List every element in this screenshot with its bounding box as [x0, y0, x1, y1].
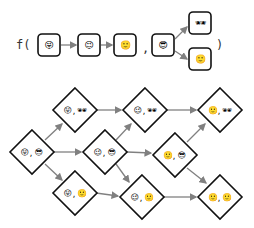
node-left-emoji: 😉	[131, 193, 139, 202]
node-separator: ,	[173, 152, 176, 161]
edge	[45, 124, 62, 140]
node-left-emoji: 😉	[134, 106, 142, 115]
emoji-sunglasses-face-icon: 😎	[158, 40, 167, 50]
node-right-emoji: 🙂	[144, 193, 154, 202]
node-right-emoji: 😎	[178, 151, 186, 160]
node-right-emoji: 🕶	[222, 106, 232, 115]
node-left-emoji: 😜	[21, 148, 29, 157]
node-right-emoji: 🙂	[222, 193, 232, 202]
node-separator: ,	[140, 194, 143, 203]
edge	[45, 164, 62, 180]
function-suffix: )	[216, 38, 223, 52]
edge	[127, 152, 151, 153]
emoji-sunglasses-icon: 🕶	[195, 18, 207, 28]
node-separator: ,	[143, 107, 146, 116]
graph-node: 🙂 , 🕶	[198, 88, 242, 132]
node-separator: ,	[218, 107, 221, 116]
node-left-emoji: 🙂	[208, 193, 218, 202]
node-left-emoji: 😜	[64, 189, 72, 198]
arrow	[175, 51, 187, 59]
function-prefix: f(	[16, 38, 30, 52]
node-left-emoji: 🙂	[163, 151, 173, 160]
graph-node: 😜 , 😎	[10, 130, 54, 174]
node-left-emoji: 😜	[64, 106, 72, 115]
edge	[187, 124, 205, 142]
edge	[96, 193, 118, 196]
emoji-smile-icon: 🙂	[195, 54, 206, 64]
node-separator: ,	[30, 149, 33, 158]
node-left-emoji: 😉	[94, 148, 102, 157]
node-right-emoji: 🕶	[77, 106, 87, 115]
node-right-emoji: 🕶	[147, 106, 157, 115]
node-separator: ,	[73, 107, 76, 116]
graph-node: 😉 , 😎	[83, 130, 127, 174]
edge	[116, 164, 129, 182]
graph-node: 😉 , 🙂	[120, 175, 164, 219]
edge	[187, 168, 206, 183]
node-separator: ,	[218, 194, 221, 203]
node-separator: ,	[103, 149, 106, 158]
function-expression: f( 😜 😉 🙂 , 😎 🕶 🙂 )	[16, 12, 223, 70]
node-left-emoji: 🙂	[208, 106, 218, 115]
emoji-wink-tongue-icon: 😜	[44, 40, 53, 50]
emoji-wink-icon: 😉	[84, 40, 93, 50]
diagram-canvas: f( 😜 😉 🙂 , 😎 🕶 🙂 )	[0, 0, 254, 228]
node-right-emoji: 😎	[108, 148, 116, 157]
node-right-emoji: 😎	[35, 148, 43, 157]
argument-separator: ,	[142, 41, 149, 55]
arrow	[175, 27, 187, 39]
node-right-emoji: 🙂	[77, 189, 87, 198]
edge	[116, 124, 131, 140]
node-separator: ,	[73, 190, 76, 199]
emoji-smile-icon: 🙂	[120, 40, 131, 50]
